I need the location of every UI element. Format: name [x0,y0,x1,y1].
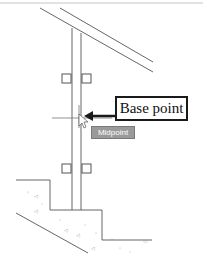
svg-text:◁: ◁ [91,245,95,251]
svg-text:◁: ◁ [64,227,68,233]
grip-upper-right[interactable] [82,74,91,83]
svg-text:◁: ◁ [143,238,147,244]
svg-text:◁: ◁ [34,208,38,214]
callout-label: Base point [120,100,184,117]
svg-text:◁: ◁ [34,193,38,199]
foundation[interactable] [16,180,152,253]
tooltip-label: Midpoint [98,128,128,137]
grip-lower-right[interactable] [82,164,91,173]
grip-lower-left[interactable] [62,164,71,173]
concrete-hatch: ◁ ◁ ◁ ◁ ◁ ◁ ∼ [28,192,148,253]
callout-arrow-icon [84,111,115,121]
midpoint-snap-tooltip: Midpoint [91,126,135,139]
base-point-callout: Base point [115,96,188,121]
grip-upper-left[interactable] [62,74,71,83]
svg-text:∼: ∼ [110,236,114,242]
sloped-beam[interactable] [40,8,153,72]
svg-text:◁: ◁ [76,232,80,238]
